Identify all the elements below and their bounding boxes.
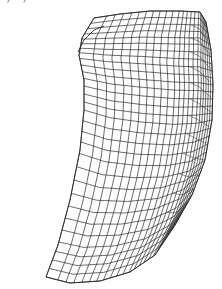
mesh-v-line	[49, 219, 178, 274]
mesh-v-line	[71, 174, 200, 202]
outline-top	[94, 11, 206, 22]
mesh-grid-lines	[46, 11, 213, 283]
mesh-u-line	[46, 18, 94, 277]
mesh-v-line	[91, 18, 207, 28]
mesh-v-line	[52, 213, 181, 266]
mesh-u-line	[139, 11, 187, 265]
wireframe-surface	[0, 0, 222, 289]
outline-left	[46, 18, 94, 277]
mesh-v-line	[94, 11, 206, 22]
outline-bottom	[46, 225, 175, 283]
mesh-v-line	[79, 152, 206, 166]
